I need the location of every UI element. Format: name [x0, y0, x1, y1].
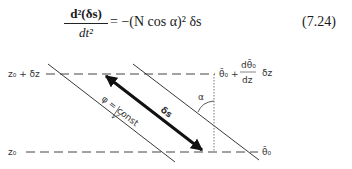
- label-top-theta-suffix: δz: [262, 68, 273, 78]
- label-angle-alpha: α: [198, 92, 204, 102]
- label-top-theta-frac-den: dz: [242, 75, 253, 85]
- label-top-theta-frac-num: dθ̄₀: [241, 59, 256, 70]
- label-bottom-level: z₀: [8, 147, 17, 157]
- label-top-theta-base: θ̄₀ +: [219, 68, 239, 79]
- label-bottom-theta: θ̄₀: [262, 146, 272, 157]
- label-top-level: z₀ + δz: [8, 69, 40, 79]
- angle-alpha-arc: [198, 101, 214, 112]
- parcel-displacement-diagram: z₀ + δz z₀ θ̄₀ + dθ̄₀ dz δz θ̄₀ φ = cons…: [0, 0, 352, 169]
